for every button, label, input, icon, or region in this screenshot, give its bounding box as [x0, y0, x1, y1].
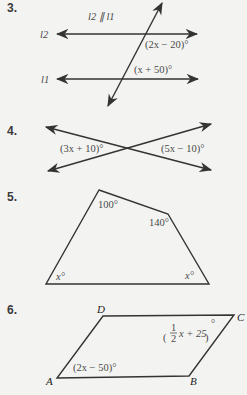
- angle-3x-plus-10: (3x + 10)°: [60, 143, 103, 155]
- angle-x-left: x°: [55, 271, 66, 282]
- angle-5x-minus-10: (5x − 10)°: [161, 143, 204, 155]
- vertex-c: C: [237, 311, 245, 323]
- svg-text:2: 2: [171, 333, 176, 344]
- label-l1: l1: [41, 74, 49, 85]
- problem-5-figure: 100° 140° x° x°: [46, 190, 209, 284]
- geometry-figures: l2 ∥ l1 l2 l1 (2x − 20)° (x + 50)° (3x +…: [0, 0, 247, 395]
- vertex-b: B: [190, 375, 197, 387]
- angle-x-right: x°: [184, 270, 195, 281]
- problem-3-figure: l2 ∥ l1 l2 l1 (2x − 20)° (x + 50)°: [40, 3, 198, 106]
- angle-2x-minus-50: (2x − 50)°: [73, 362, 116, 374]
- transversal: [108, 3, 162, 106]
- angle-100: 100°: [98, 199, 118, 210]
- label-l2: l2: [40, 29, 49, 40]
- vertex-a: A: [45, 375, 53, 387]
- problem-6-figure: A B C D (2x − 50)° ( 1 2 x + 25 ) °: [45, 303, 245, 387]
- svg-text:): ): [205, 332, 209, 344]
- svg-text:°: °: [211, 318, 215, 329]
- vertex-d: D: [96, 303, 105, 315]
- problem-4-figure: (3x + 10)° (5x − 10)°: [46, 124, 211, 171]
- parallel-note: l2 ∥ l1: [88, 11, 115, 23]
- angle-half-x-plus-25: ( 1 2 x + 25 ) °: [163, 318, 215, 344]
- svg-text:1: 1: [171, 322, 176, 333]
- svg-text:(: (: [163, 332, 167, 344]
- angle-140: 140°: [149, 217, 169, 228]
- svg-text:x + 25: x + 25: [178, 328, 207, 339]
- angle-x-plus-50: (x + 50)°: [134, 64, 172, 76]
- angle-2x-minus-20: (2x − 20)°: [145, 39, 188, 51]
